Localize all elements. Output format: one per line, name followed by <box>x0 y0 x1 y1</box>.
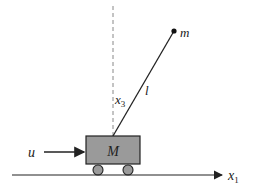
pendulum-bob <box>171 28 176 33</box>
position-axis-label: x1 <box>227 168 239 185</box>
force-label: u <box>28 145 35 160</box>
pendulum-diagram: m l x3 M u x1 <box>0 0 254 189</box>
cart-mass-label: M <box>106 144 120 159</box>
pole-length-label: l <box>145 83 149 98</box>
wheel-right <box>123 165 133 175</box>
angle-label: x3 <box>114 92 126 109</box>
bob-mass-label: m <box>180 25 189 40</box>
pendulum-rod <box>113 31 174 136</box>
wheel-left <box>93 165 103 175</box>
